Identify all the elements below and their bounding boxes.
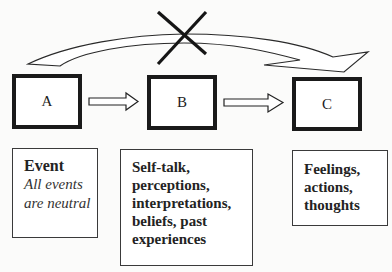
- node-c: C: [292, 77, 362, 131]
- arrow-b-to-c: [224, 94, 283, 112]
- beliefs-line-1: Self-talk,: [132, 158, 252, 176]
- node-b-label: B: [177, 94, 187, 111]
- event-subtitle-line-2: are neutral: [24, 194, 97, 213]
- beliefs-line-5: experiences: [132, 230, 252, 248]
- curved-arrow-a-to-c: [28, 34, 368, 72]
- arrow-a-to-b: [89, 93, 138, 110]
- consequences-line-3: thoughts: [304, 196, 387, 214]
- event-title: Event: [24, 157, 97, 175]
- node-b: B: [147, 75, 217, 130]
- beliefs-line-3: interpretations,: [132, 194, 252, 212]
- node-a: A: [12, 74, 82, 129]
- consequences-line-1: Feelings,: [304, 160, 387, 178]
- description-beliefs: Self-talk, perceptions, interpretations,…: [120, 149, 253, 266]
- consequences-line-2: actions,: [304, 178, 387, 196]
- beliefs-line-2: perceptions,: [132, 176, 252, 194]
- node-c-label: C: [322, 96, 332, 113]
- description-event: Event All events are neutral: [12, 148, 98, 238]
- beliefs-line-4: beliefs, past: [132, 212, 252, 230]
- event-subtitle-line-1: All events: [24, 175, 97, 194]
- description-consequences: Feelings, actions, thoughts: [292, 150, 388, 226]
- node-a-label: A: [42, 93, 53, 110]
